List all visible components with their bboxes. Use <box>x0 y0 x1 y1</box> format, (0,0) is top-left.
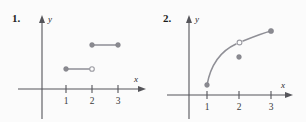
x-axis-label-1: x <box>133 74 138 84</box>
curve-left-branch <box>207 44 236 85</box>
y-axis-arrow-2 <box>186 15 192 23</box>
x-axis-arrow-1 <box>138 86 146 92</box>
x-tick-label-2-2: 2 <box>237 102 242 112</box>
y-axis-label-2: y <box>194 14 199 24</box>
y-axis-arrow-1 <box>39 15 45 23</box>
lower-step-right-open-dot <box>90 67 95 72</box>
plot-1: y x 1 2 3 <box>0 0 153 129</box>
x-tick-label-1-1: 1 <box>64 96 69 106</box>
lower-step-left-closed-dot <box>64 67 69 72</box>
x-axis-arrow-2 <box>285 92 293 98</box>
curve-right-endpoint-dot <box>268 28 273 33</box>
y-axis-label-1: y <box>47 14 52 24</box>
x-axis-label-2: x <box>280 80 285 90</box>
panel-1: 1. y x 1 2 3 <box>0 0 153 129</box>
upper-step-right-closed-dot <box>116 43 121 48</box>
curve-value-closed-dot <box>237 55 242 60</box>
curve-left-endpoint-dot <box>205 83 210 88</box>
bottom-edge <box>0 122 306 129</box>
x-tick-label-1-2: 2 <box>90 96 95 106</box>
x-tick-label-1-3: 3 <box>116 96 121 106</box>
panel-2: 2. y x 1 2 3 <box>153 0 306 129</box>
x-tick-label-2-3: 3 <box>269 102 274 112</box>
curve-hole-open-dot <box>237 40 242 45</box>
plot-2: y x 1 2 3 <box>153 0 306 129</box>
figure-root: 1. y x 1 2 3 2 <box>0 0 306 129</box>
curve-right-branch <box>243 31 271 41</box>
upper-step-left-closed-dot <box>90 43 95 48</box>
x-tick-label-2-1: 1 <box>205 102 210 112</box>
